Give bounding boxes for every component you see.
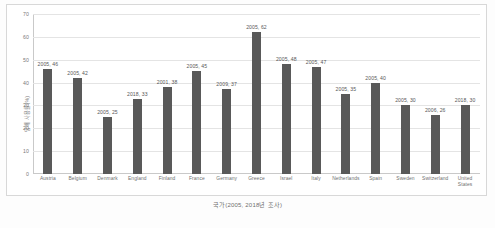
bar-value-label: 2005, 46 <box>38 61 59 67</box>
x-axis-title: 국가(2005, 2018년 조사) <box>0 200 495 209</box>
x-axis-tick-label: Netherlands <box>331 176 361 188</box>
y-axis-tick-label: 10 <box>23 148 29 154</box>
bar-slot: 2018, 33 <box>122 14 152 174</box>
bar-value-label: 2009, 37 <box>216 81 237 87</box>
bar-value-label: 2005, 62 <box>246 24 267 30</box>
bar <box>461 105 470 174</box>
x-axis-tick-label: Denmark <box>93 176 123 188</box>
bar <box>431 115 440 174</box>
bar-value-label: 2005, 47 <box>306 59 327 65</box>
bar <box>133 99 142 174</box>
x-axis-tick-label: Austria <box>33 176 63 188</box>
y-axis-tick-label: 20 <box>23 125 29 131</box>
bar-slot: 2005, 30 <box>391 14 421 174</box>
x-axis-tick-label: United States <box>450 176 480 188</box>
bar-slot: 2005, 42 <box>63 14 93 174</box>
bar <box>401 105 410 174</box>
x-axis-tick-label: England <box>122 176 152 188</box>
x-axis-tick-label: Spain <box>361 176 391 188</box>
bar-value-label: 2005, 35 <box>336 86 357 92</box>
y-axis-tick-label: 0 <box>26 171 29 177</box>
bar <box>282 64 291 174</box>
y-axis-tick-label: 40 <box>23 80 29 86</box>
bar-chart-figure: 담배 사용률(%) 010203040506070 2005, 462005, … <box>0 0 495 228</box>
x-axis-tick-label: Sweden <box>391 176 421 188</box>
bar <box>252 32 261 174</box>
bar <box>341 94 350 174</box>
bar-value-label: 2005, 30 <box>395 97 416 103</box>
bar-slot: 2005, 45 <box>182 14 212 174</box>
bar-slot: 2005, 25 <box>93 14 123 174</box>
bar <box>103 117 112 174</box>
bar <box>371 83 380 174</box>
bar-value-label: 2005, 25 <box>97 109 118 115</box>
x-axis-tick-label: Israel <box>271 176 301 188</box>
bar-value-label: 2005, 48 <box>276 56 297 62</box>
bar <box>222 89 231 174</box>
bar-slot: 2005, 48 <box>271 14 301 174</box>
y-axis-tick-label: 50 <box>23 57 29 63</box>
bar-value-label: 2018, 30 <box>455 97 476 103</box>
bar-slot: 2001, 38 <box>152 14 182 174</box>
y-axis-tick-label: 60 <box>23 34 29 40</box>
x-axis-tick-label: Switzerland <box>420 176 450 188</box>
bar <box>163 87 172 174</box>
x-axis-tick-label: Italy <box>301 176 331 188</box>
bar <box>192 71 201 174</box>
bar-value-label: 2006, 26 <box>425 107 446 113</box>
bar-slot: 2005, 46 <box>33 14 63 174</box>
bar-value-label: 2018, 33 <box>127 91 148 97</box>
x-axis-tick-label: France <box>182 176 212 188</box>
x-axis-tick-label: Greece <box>242 176 272 188</box>
bar-value-label: 2005, 40 <box>365 75 386 81</box>
x-axis-tick-label: Germany <box>212 176 242 188</box>
bar-slot: 2005, 47 <box>301 14 331 174</box>
bar-slot: 2006, 26 <box>420 14 450 174</box>
bar-slot: 2009, 37 <box>212 14 242 174</box>
bar-value-label: 2005, 42 <box>67 70 88 76</box>
bar-value-label: 2005, 45 <box>187 63 208 69</box>
bar-slot: 2018, 30 <box>450 14 480 174</box>
bar-series: 2005, 462005, 422005, 252018, 332001, 38… <box>33 14 480 174</box>
x-axis-tick-label: Finland <box>152 176 182 188</box>
bar-slot: 2005, 35 <box>331 14 361 174</box>
y-axis-tick-label: 70 <box>23 11 29 17</box>
bar-value-label: 2001, 38 <box>157 79 178 85</box>
bar <box>312 67 321 174</box>
x-axis-tick-labels: AustriaBelgiumDenmarkEnglandFinlandFranc… <box>33 176 480 188</box>
bar <box>43 69 52 174</box>
bar-slot: 2005, 62 <box>242 14 272 174</box>
bar-slot: 2005, 40 <box>361 14 391 174</box>
x-axis-tick-label: Belgium <box>63 176 93 188</box>
y-axis-tick-label: 30 <box>23 102 29 108</box>
bar <box>73 78 82 174</box>
